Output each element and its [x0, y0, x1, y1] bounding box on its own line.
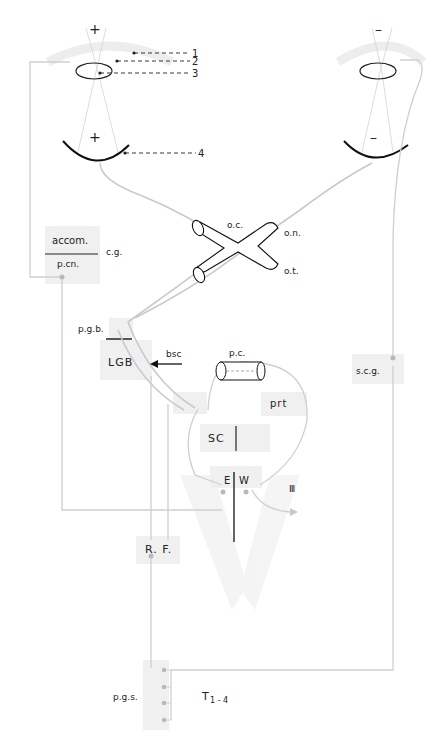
label-lgb: LGB	[108, 356, 133, 369]
label-prt: prt	[270, 398, 287, 409]
label-accom: accom.	[52, 235, 88, 246]
label-ot: o.t.	[284, 266, 299, 276]
pupillary-reflex-diagram: + + – – 1 2 3 4 o.c. o.n. o.t. accom. p.…	[0, 0, 434, 745]
sympathetic-ascending	[393, 60, 422, 356]
label-e: E	[224, 475, 230, 486]
label-t14-sub: 1 - 4	[210, 696, 228, 705]
label-bsc: bsc	[166, 349, 181, 359]
label-oc: o.c.	[227, 220, 243, 230]
posterior-commissure	[216, 362, 265, 380]
left-object-sign: +	[89, 21, 101, 37]
left-retina-sign: +	[89, 129, 101, 145]
callout-4: 4	[198, 148, 204, 159]
label-on: o.n.	[284, 228, 301, 238]
label-scg: s.c.g.	[356, 366, 380, 376]
label-w: W	[239, 475, 249, 486]
left-lens	[76, 63, 112, 79]
callout-2: 2	[192, 56, 198, 67]
label-pgb: p.g.b.	[78, 324, 104, 334]
label-rf: R. F.	[145, 543, 172, 556]
label-cn3: Ⅲ	[289, 484, 295, 494]
label-cg: c.g.	[106, 247, 122, 257]
watermark-v	[180, 475, 300, 610]
callout-3: 3	[192, 68, 198, 79]
cn3-arrow	[290, 508, 298, 516]
label-sc: SC	[208, 432, 225, 445]
label-pc: p.c.	[229, 348, 245, 358]
right-lens	[360, 63, 396, 79]
right-object-sign: –	[375, 21, 382, 37]
callout-dots	[98, 51, 135, 154]
label-pcn: p.cn.	[57, 259, 79, 269]
ew-box	[210, 466, 262, 488]
label-pgs: p.g.s.	[113, 692, 138, 702]
left-iris-arc	[48, 46, 172, 62]
label-t14: T	[201, 690, 209, 703]
right-retina-sign: –	[370, 129, 377, 145]
